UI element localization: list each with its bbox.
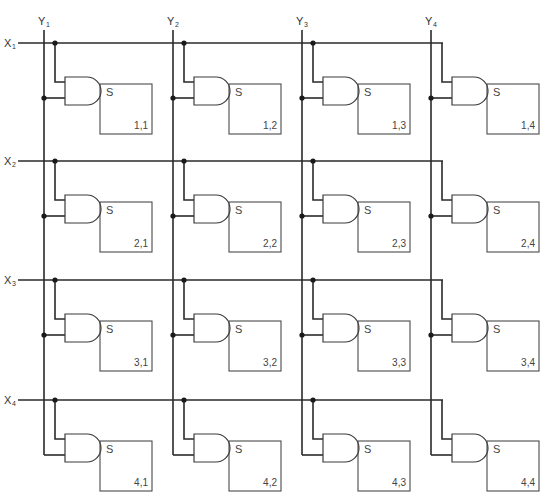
x-label-sub-2: 2 — [12, 161, 16, 168]
x-junction-dot — [310, 158, 315, 163]
set-input-label: S — [106, 323, 113, 335]
memory-cell-1-3: S1,3 — [299, 40, 410, 134]
y-label-sub-3: 3 — [304, 21, 308, 28]
x-junction-dot — [310, 397, 315, 402]
cell-address-label: 4,3 — [392, 477, 406, 488]
x-tap-wire — [442, 400, 452, 439]
set-input-label: S — [235, 204, 242, 216]
x-tap-wire — [184, 43, 194, 82]
and-gate-icon — [65, 314, 101, 342]
and-gate-icon — [323, 195, 359, 223]
x-tap-wire — [55, 280, 65, 319]
set-input-label: S — [106, 204, 113, 216]
and-gate-icon — [452, 195, 488, 223]
and-gate-icon — [65, 77, 101, 105]
set-input-label: S — [364, 443, 371, 455]
and-gate-icon — [194, 77, 230, 105]
y-junction-dot — [170, 213, 175, 218]
y-junction-dot — [299, 95, 304, 100]
memory-cell-4-3: S4,3 — [302, 397, 410, 491]
y-junction-dot — [170, 95, 175, 100]
y-label-1: Y — [38, 15, 46, 27]
x-junction-dot — [52, 40, 57, 45]
y-junction-dot — [428, 95, 433, 100]
cell-address-label: 2,1 — [134, 238, 148, 249]
x-label-2: X — [4, 155, 12, 167]
y-label-3: Y — [296, 15, 304, 27]
set-input-label: S — [235, 443, 242, 455]
and-gate-icon — [323, 314, 359, 342]
x-label-1: X — [4, 37, 12, 49]
cell-address-label: 1,3 — [392, 120, 406, 131]
x-label-sub-1: 1 — [12, 43, 16, 50]
set-input-label: S — [106, 443, 113, 455]
cell-address-label: 1,2 — [263, 120, 277, 131]
memory-cell-4-1: S4,1 — [44, 397, 152, 491]
and-gate-icon — [194, 195, 230, 223]
set-input-label: S — [235, 86, 242, 98]
x-junction-dot — [181, 397, 186, 402]
cell-address-label: 3,2 — [263, 357, 277, 368]
and-gate-icon — [323, 77, 359, 105]
and-gate-icon — [452, 77, 488, 105]
and-gate-icon — [194, 434, 230, 462]
memory-cell-2-1: S2,1 — [41, 158, 152, 252]
memory-matrix-diagram: Y1Y2Y3Y4X1X2X3X4 S1,1S1,2S1,3S1,4S2,1S2,… — [0, 0, 553, 498]
cell-address-label: 3,3 — [392, 357, 406, 368]
x-label-sub-4: 4 — [12, 400, 16, 407]
x-tap-wire — [55, 161, 65, 200]
cell-address-label: 2,2 — [263, 238, 277, 249]
cells: S1,1S1,2S1,3S1,4S2,1S2,2S2,3S2,4S3,1S3,2… — [41, 40, 539, 491]
memory-cell-2-3: S2,3 — [299, 158, 410, 252]
x-tap-wire — [184, 400, 194, 439]
y-junction-dot — [428, 213, 433, 218]
y-label-sub-2: 2 — [175, 21, 179, 28]
and-gate-icon — [194, 314, 230, 342]
set-input-label: S — [493, 86, 500, 98]
x-label-3: X — [4, 274, 12, 286]
memory-cell-2-2: S2,2 — [170, 158, 281, 252]
cell-address-label: 4,1 — [134, 477, 148, 488]
set-input-label: S — [364, 204, 371, 216]
x-tap-wire — [442, 43, 452, 82]
x-tap-wire — [313, 400, 323, 439]
memory-cell-1-4: S1,4 — [428, 43, 539, 134]
memory-cell-3-3: S3,3 — [299, 277, 410, 371]
x-label-sub-3: 3 — [12, 280, 16, 287]
memory-cell-3-4: S3,4 — [428, 280, 539, 371]
x-tap-wire — [313, 280, 323, 319]
memory-cell-4-4: S4,4 — [431, 400, 539, 491]
y-label-sub-4: 4 — [433, 21, 437, 28]
cell-address-label: 2,3 — [392, 238, 406, 249]
x-junction-dot — [310, 277, 315, 282]
memory-cell-4-2: S4,2 — [173, 397, 281, 491]
x-tap-wire — [184, 161, 194, 200]
set-input-label: S — [235, 323, 242, 335]
x-junction-dot — [52, 158, 57, 163]
memory-cell-3-2: S3,2 — [170, 277, 281, 371]
y-label-2: Y — [167, 15, 175, 27]
memory-cell-1-2: S1,2 — [170, 40, 281, 134]
x-junction-dot — [181, 40, 186, 45]
set-input-label: S — [493, 323, 500, 335]
x-junction-dot — [52, 397, 57, 402]
set-input-label: S — [493, 443, 500, 455]
and-gate-icon — [452, 314, 488, 342]
and-gate-icon — [452, 434, 488, 462]
y-label-sub-1: 1 — [46, 21, 50, 28]
y-junction-dot — [428, 332, 433, 337]
x-tap-wire — [55, 43, 65, 82]
x-junction-dot — [181, 158, 186, 163]
cell-address-label: 4,2 — [263, 477, 277, 488]
x-tap-wire — [184, 280, 194, 319]
y-junction-dot — [41, 213, 46, 218]
x-tap-wire — [442, 161, 452, 200]
y-junction-dot — [299, 213, 304, 218]
set-input-label: S — [493, 204, 500, 216]
cell-address-label: 3,4 — [521, 357, 535, 368]
memory-cell-3-1: S3,1 — [41, 277, 152, 371]
x-junction-dot — [52, 277, 57, 282]
and-gate-icon — [65, 434, 101, 462]
x-tap-wire — [313, 43, 323, 82]
y-junction-dot — [41, 332, 46, 337]
